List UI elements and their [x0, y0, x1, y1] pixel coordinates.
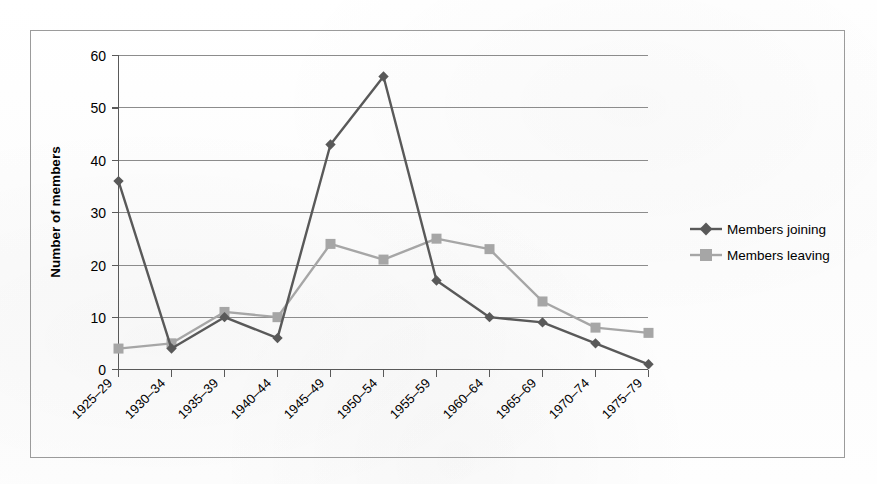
chart-legend: Members joining Members leaving: [690, 222, 830, 263]
x-tick-label: 1925–29: [69, 376, 115, 422]
x-tick-label: 1975–79: [599, 376, 645, 422]
data-point-square-marker-icon: [379, 255, 389, 265]
data-point-square-marker-icon: [591, 323, 601, 333]
y-tick-label: 30: [90, 205, 106, 221]
y-tick-label: 40: [90, 153, 106, 169]
x-tick-label: 1965–69: [493, 376, 539, 422]
legend-entry-members-joining[interactable]: Members joining: [690, 222, 826, 237]
gridlines: [118, 56, 648, 318]
x-tick-label: 1940–44: [228, 376, 274, 422]
x-tick-label: 1960–64: [440, 376, 486, 422]
line-chart: 60 50 40 30 20 10 0 Number of members 1: [0, 0, 877, 484]
y-axis-title: Number of members: [48, 146, 63, 277]
legend-label-members-joining: Members joining: [727, 222, 826, 237]
data-point-square-marker-icon: [538, 296, 548, 306]
data-point-diamond-marker-icon: [537, 317, 547, 327]
legend-diamond-marker-icon: [700, 223, 713, 236]
data-point-square-marker-icon: [114, 344, 124, 354]
y-tick-label: 60: [90, 48, 106, 64]
y-tick-label: 10: [90, 310, 106, 326]
x-tick-label: 1955–59: [387, 376, 433, 422]
legend-label-members-leaving: Members leaving: [727, 248, 830, 263]
x-tick-label: 1970–74: [546, 376, 592, 422]
x-axis-tick-labels: 1925–29 1930–34 1935–39 1940–44 1945–49 …: [69, 376, 645, 422]
data-point-square-marker-icon: [326, 239, 336, 249]
y-axis-ticks: [112, 56, 118, 370]
y-tick-label: 50: [90, 100, 106, 116]
data-point-diamond-marker-icon: [113, 176, 123, 186]
x-tick-label: 1935–39: [175, 376, 221, 422]
series-members-joining: [113, 71, 653, 369]
x-tick-label: 1950–54: [334, 376, 380, 422]
data-point-diamond-marker-icon: [590, 338, 600, 348]
data-series-layer: [113, 71, 653, 369]
x-tick-label: 1930–34: [122, 376, 168, 422]
x-tick-label: 1945–49: [281, 376, 327, 422]
x-axis-ticks: [119, 370, 649, 377]
chart-screenshot: 60 50 40 30 20 10 0 Number of members 1: [0, 0, 877, 484]
data-point-square-marker-icon: [432, 234, 442, 244]
data-point-square-marker-icon: [485, 244, 495, 254]
data-point-diamond-marker-icon: [643, 359, 653, 369]
y-tick-label: 0: [98, 362, 106, 378]
data-point-square-marker-icon: [273, 312, 283, 322]
data-point-square-marker-icon: [644, 328, 654, 338]
series-line-members-joining: [119, 76, 649, 364]
data-point-diamond-marker-icon: [272, 333, 282, 343]
y-axis-tick-labels: 60 50 40 30 20 10 0: [90, 48, 106, 378]
legend-entry-members-leaving[interactable]: Members leaving: [690, 248, 830, 263]
y-tick-label: 20: [90, 258, 106, 274]
legend-square-marker-icon: [700, 249, 712, 261]
